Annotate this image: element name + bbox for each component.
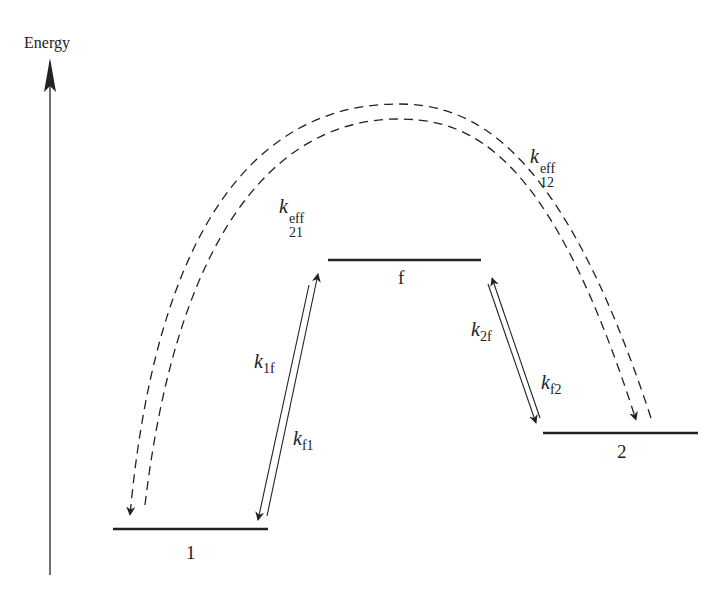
rate-subscript: f1: [302, 438, 314, 453]
energy-axis: [44, 58, 56, 575]
rate-label-k12eff: keff12: [530, 145, 555, 190]
rate-subscript: 1f: [263, 361, 275, 376]
arrow-k2f: [492, 278, 540, 418]
energy-diagram-canvas: [0, 0, 727, 599]
arrow-kf1: [258, 285, 309, 520]
rate-subscript: 12: [540, 176, 555, 190]
rate-subscript: f2: [550, 382, 562, 397]
rate-label-k21eff: keff21: [279, 195, 304, 240]
rate-subscript: 21: [289, 226, 304, 240]
arrow-k21eff: [130, 104, 651, 515]
rate-symbol: k: [254, 350, 263, 372]
arrow-kf2: [488, 284, 536, 423]
rate-subscript: 2f: [480, 329, 492, 344]
rate-symbol: k: [530, 145, 539, 167]
level-1-label: 1: [186, 542, 196, 564]
rate-symbol: k: [279, 195, 288, 217]
rate-superscript: eff: [540, 162, 555, 176]
level-2-label: 2: [617, 441, 627, 463]
rate-label-kf1: kf1: [293, 427, 314, 454]
rate-symbol: k: [541, 371, 550, 393]
arrow-k1f: [267, 274, 318, 516]
rate-superscript: eff: [289, 212, 304, 226]
rate-symbol: k: [471, 318, 480, 340]
arrow-k12eff: [145, 119, 636, 505]
energy-axis-label: Energy: [24, 34, 70, 52]
rate-label-k2f: k2f: [471, 318, 492, 345]
rate-label-k1f: k1f: [254, 350, 275, 377]
level-f-label: f: [398, 267, 404, 289]
rate-symbol: k: [293, 427, 302, 449]
rate-label-kf2: kf2: [541, 371, 562, 398]
